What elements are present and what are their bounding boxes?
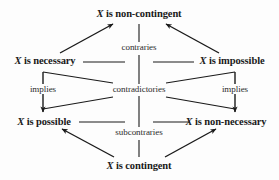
contingent-to-possible-arrow	[62, 129, 114, 157]
node-non-necessary-variable: X	[185, 116, 192, 127]
node-impossible-text: is impossible	[206, 55, 264, 66]
node-non-necessary-text: is non-necessary	[192, 116, 266, 127]
relation-label-subcontraries: subcontraries	[113, 127, 164, 137]
contingent-to-non-necessary-arrow	[165, 129, 216, 157]
diagram-canvas: X is non-contingent X is necessary X is …	[0, 0, 279, 180]
node-non-contingent: X is non-contingent	[96, 8, 181, 19]
relation-label-contraries: contraries	[120, 42, 159, 52]
node-non-contingent-text: is non-contingent	[103, 8, 181, 19]
contradictories-diagonal-nw-se-lower	[43, 97, 113, 109]
node-impossible-variable: X	[199, 55, 206, 66]
node-necessary-variable: X	[14, 55, 21, 66]
node-non-contingent-variable: X	[96, 8, 103, 19]
node-possible-variable: X	[17, 116, 24, 127]
node-necessary: X is necessary	[14, 55, 75, 66]
relation-label-implies-right: implies	[220, 84, 250, 94]
node-non-necessary: X is non-necessary	[185, 116, 266, 127]
node-contingent-text: is contingent	[113, 160, 171, 171]
impossible-to-non-contingent-arrow	[166, 24, 219, 53]
node-possible-text: is possible	[24, 116, 71, 127]
contradictories-diagonal-ne-sw-lower	[166, 97, 235, 109]
node-contingent: X is contingent	[106, 160, 171, 171]
node-necessary-text: is necessary	[21, 55, 75, 66]
contradictories-diagonal-ne-sw-upper	[43, 72, 113, 83]
necessary-to-non-contingent-arrow	[60, 24, 113, 53]
relation-label-contradictories: contradictories	[111, 84, 168, 94]
node-contingent-variable: X	[106, 160, 113, 171]
contradictories-diagonal-nw-se-upper	[166, 72, 235, 83]
node-impossible: X is impossible	[199, 55, 264, 66]
node-possible: X is possible	[17, 116, 71, 127]
relation-label-implies-left: implies	[28, 84, 58, 94]
